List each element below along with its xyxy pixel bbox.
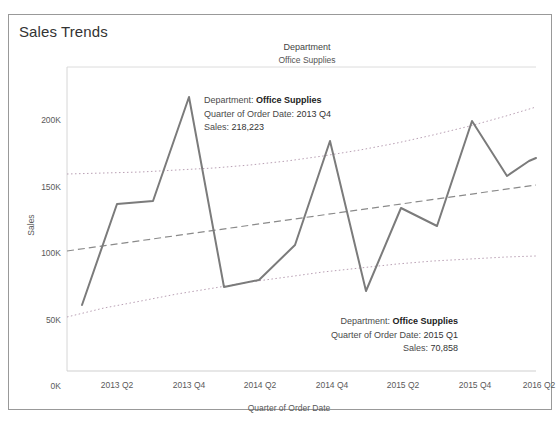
x-axis-title: Quarter of Order Date <box>189 403 389 413</box>
y-tick-50k: 50K <box>21 315 61 325</box>
trend-line[interactable] <box>67 185 536 251</box>
x-tick-2013-q2: 2013 Q2 <box>87 380 147 390</box>
tooltip-peak-sales-value: 218,223 <box>232 122 265 132</box>
x-tick-2016-q2: 2016 Q2 <box>509 380 560 390</box>
y-tick-0k: 0K <box>21 381 61 391</box>
x-tick-2014-q2: 2014 Q2 <box>230 380 290 390</box>
tooltip-peak-department-value: Office Supplies <box>256 95 322 105</box>
confidence-band-lower <box>67 256 536 317</box>
tooltip-trough-department-row: Department: Office Supplies <box>331 315 458 329</box>
tooltip-trough-sales-row: Sales: 70,858 <box>331 342 458 356</box>
plot-stage: Department Office Supplies 200K 150K 100… <box>9 15 553 411</box>
tooltip-2015-q1: Department: Office Supplies Quarter of O… <box>331 315 458 356</box>
chart-canvas <box>9 15 553 411</box>
y-tick-200k: 200K <box>21 115 61 125</box>
tooltip-trough-department-value: Office Supplies <box>393 316 459 326</box>
x-tick-2015-q2: 2015 Q2 <box>373 380 433 390</box>
tooltip-peak-department-label: Department: <box>204 95 254 105</box>
visualization-frame: Sales Trends Department Office Supplies … <box>8 14 552 410</box>
tooltip-2013-q4: Department: Office Supplies Quarter of O… <box>204 94 331 135</box>
tooltip-trough-quarter-row: Quarter of Order Date: 2015 Q1 <box>331 329 458 343</box>
x-tick-2014-q4: 2014 Q4 <box>302 380 362 390</box>
y-axis-title: Sales <box>26 195 36 255</box>
tooltip-peak-sales-row: Sales: 218,223 <box>204 121 331 135</box>
x-tick-2015-q4: 2015 Q4 <box>445 380 505 390</box>
tooltip-trough-quarter-value: 2015 Q1 <box>424 330 459 340</box>
tooltip-trough-department-label: Department: <box>341 316 391 326</box>
tooltip-peak-quarter-value: 2013 Q4 <box>297 109 332 119</box>
clipped-header-text <box>0 0 560 8</box>
y-tick-150k: 150K <box>21 182 61 192</box>
tooltip-peak-quarter-label: Quarter of Order Date: <box>204 109 294 119</box>
tooltip-peak-sales-label: Sales: <box>204 122 229 132</box>
tooltip-trough-sales-label: Sales: <box>403 343 428 353</box>
tooltip-peak-quarter-row: Quarter of Order Date: 2013 Q4 <box>204 108 331 122</box>
tooltip-trough-sales-value: 70,858 <box>431 343 459 353</box>
tooltip-trough-quarter-label: Quarter of Order Date: <box>331 330 421 340</box>
x-tick-2013-q4: 2013 Q4 <box>159 380 219 390</box>
tooltip-peak-department-row: Department: Office Supplies <box>204 94 331 108</box>
